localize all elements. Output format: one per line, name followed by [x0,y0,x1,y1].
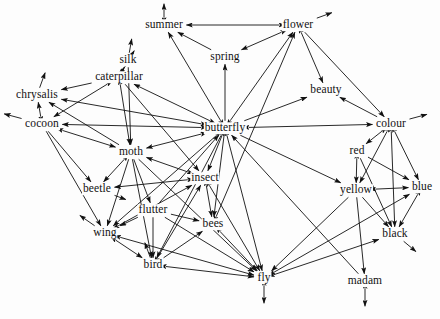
edge-colour-to-yellow [360,131,387,183]
node-flutter[interactable]: flutter [138,204,169,216]
edge-butterfly-to-beauty [244,97,307,121]
edge-butterfly-to-caterpillar [134,84,210,121]
node-bees[interactable]: bees [202,218,225,230]
stub-edge-colour [409,114,426,119]
stub-edge-silk [129,39,131,53]
edge-madam-to-butterfly [232,135,359,274]
edge-butterfly-to-yellow [240,135,340,183]
edge-cocoon-to-wing [46,131,101,226]
edge-spring-to-summer [178,32,211,50]
node-fly[interactable]: fly [256,272,271,284]
edge-wing-to-bird [116,240,142,258]
edge-flower-to-spring [242,32,282,50]
edge-fly-to-black [274,239,379,274]
edge-colour-to-beauty [340,97,377,117]
edge-butterfly-to-cocoon [62,124,201,127]
node-black[interactable]: black [381,228,408,240]
edge-red-to-yellow [356,158,357,183]
edge-butterfly-to-flower [230,32,293,121]
edge-red-to-blue [368,157,409,180]
node-caterpillar[interactable]: caterpillar [94,71,144,83]
edge-yellow-to-blue [375,188,408,190]
edge-colour-to-blue [395,131,419,180]
node-moth[interactable]: moth [118,146,144,158]
node-spring[interactable]: spring [209,51,240,63]
node-summer[interactable]: summer [144,19,184,31]
edge-cocoon-to-moth [62,130,115,147]
edge-flower-to-colour [305,32,384,117]
node-madam[interactable]: madam [347,275,383,287]
graph-edges-layer [0,0,440,319]
node-silk[interactable]: silk [118,54,137,66]
node-red[interactable]: red [349,145,366,157]
stub-edge-black [404,241,416,251]
stub-edge-cocoon [4,114,21,119]
edge-yellow-to-fly [272,197,349,271]
node-blue[interactable]: blue [411,181,433,193]
stub-edge-wing [80,215,95,225]
edge-butterfly-to-summer [168,32,220,121]
node-bird[interactable]: bird [143,259,164,271]
node-yellow[interactable]: yellow [339,184,373,196]
edge-flutter-to-butterfly [159,135,218,203]
edge-caterpillar-to-moth [120,84,130,145]
word-association-graph: summerflowerspringsilkcaterpillarbeautyc… [0,0,440,319]
node-beauty[interactable]: beauty [309,84,342,96]
edge-yellow-to-madam [357,197,365,274]
edge-bird-to-bees [164,231,203,258]
edge-colour-to-red [366,131,382,144]
edge-colour-to-black [391,131,394,227]
edge-flutter-to-wing [120,217,138,226]
edge-bees-to-fly [220,231,257,271]
edge-cocoon-to-chrysalis [38,102,41,117]
edge-moth-to-beetle [104,159,125,182]
edge-insect-to-bees [206,185,211,217]
node-cocoon[interactable]: cocoon [24,118,60,130]
node-insect[interactable]: insect [190,172,219,184]
edge-blue-to-black [399,194,418,227]
node-colour[interactable]: colour [375,118,407,130]
edge-cocoon-to-beetle [48,131,91,182]
edge-caterpillar-to-chrysalis [61,83,91,90]
edge-butterfly-to-bird [157,135,221,258]
stub-edge-flower [317,13,332,18]
edge-flutter-to-bees [171,214,199,221]
edge-insect-to-moth [147,157,188,172]
edge-butterfly-to-fly [227,135,262,271]
node-chrysalis[interactable]: chrysalis [15,89,59,101]
node-wing[interactable]: wing [92,227,117,239]
edge-butterfly-to-chrysalis [61,99,201,124]
edge-butterfly-to-colour [249,124,373,127]
node-butterfly[interactable]: butterfly [204,122,247,134]
stub-edge-chrysalis [40,73,45,88]
node-beetle[interactable]: beetle [82,183,112,195]
node-flower[interactable]: flower [282,19,315,31]
